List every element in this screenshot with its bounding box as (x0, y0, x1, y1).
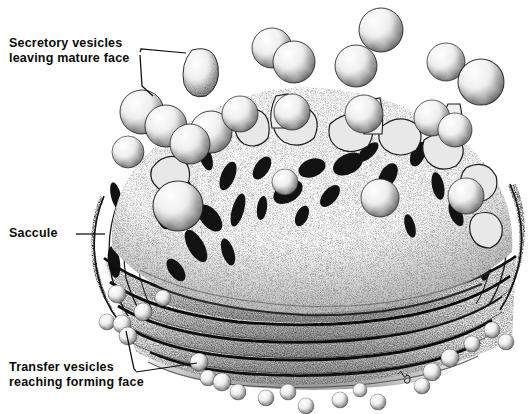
transfer-vesicle (213, 373, 231, 391)
transfer-vesicle (441, 349, 459, 367)
secretory-vesicle (170, 124, 210, 164)
transfer-vesicle (370, 394, 386, 410)
label-secretory-line2: leaving mature face (9, 51, 130, 66)
label-secretory-vesicles: Secretory vesicles leaving mature face (9, 36, 130, 66)
transfer-vesicle (414, 378, 430, 394)
transfer-vesicle (298, 398, 314, 414)
secretory-vesicle (153, 181, 203, 231)
transfer-vesicle (464, 336, 480, 352)
transfer-vesicle (155, 290, 171, 306)
secretory-vesicle (361, 179, 399, 217)
label-transfer-line2: reaching forming face (9, 375, 144, 390)
transfer-vesicle (230, 384, 246, 400)
transfer-vesicle (353, 383, 367, 397)
transfer-vesicle (190, 353, 208, 371)
label-saccule: Saccule (9, 226, 58, 241)
transfer-vesicle (332, 392, 348, 408)
secretory-vesicle (359, 8, 403, 52)
label-secretory-line1: Secretory vesicles (9, 36, 130, 51)
secretory-vesicle (335, 45, 377, 87)
secretory-vesicle (345, 95, 383, 133)
transfer-vesicle (498, 334, 514, 350)
transfer-vesicle (423, 363, 441, 381)
label-saccule-line1: Saccule (9, 226, 58, 241)
secretory-vesicle (183, 49, 219, 97)
secretory-vesicle (272, 169, 298, 195)
secretory-vesicle (448, 178, 484, 214)
label-transfer-vesicles: Transfer vesicles reaching forming face (9, 360, 144, 390)
secretory-vesicle (458, 59, 504, 105)
secretory-vesicle (438, 113, 472, 147)
transfer-vesicle (484, 322, 500, 338)
transfer-vesicle (99, 314, 115, 330)
transfer-vesicle (280, 384, 296, 400)
secretory-vesicle (222, 96, 258, 132)
transfer-vesicle (134, 303, 152, 321)
secretory-vesicle (274, 94, 310, 130)
transfer-vesicle (258, 390, 274, 406)
secretory-vesicle (273, 41, 315, 83)
figure-canvas: Secretory vesicles leaving mature face S… (0, 0, 532, 414)
label-transfer-line1: Transfer vesicles (9, 360, 144, 375)
leader-secretory-up (140, 49, 186, 53)
secretory-vesicle (112, 136, 144, 168)
transfer-vesicle (108, 285, 126, 303)
